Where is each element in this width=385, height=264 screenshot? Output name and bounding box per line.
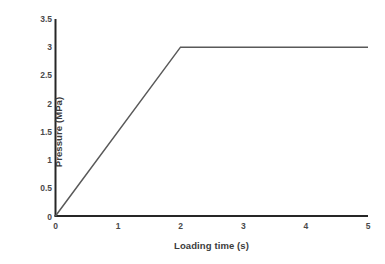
x-axis-title: Loading time (s) xyxy=(55,240,368,251)
x-tick-label: 3 xyxy=(231,221,255,231)
x-tick-label: 0 xyxy=(44,221,68,231)
y-axis-title: Pressure (MPa) xyxy=(22,0,44,264)
y-axis-title-text: Pressure (MPa) xyxy=(53,97,64,168)
pressure-vs-loading-time-chart: 3.5 3 2.5 2 1.5 1 0.5 0 0 1 2 3 4 5 Pres… xyxy=(0,0,385,264)
x-tick-label: 4 xyxy=(294,221,318,231)
pressure-series-line xyxy=(56,47,369,216)
x-tick-label: 2 xyxy=(169,221,193,231)
x-tick-label: 1 xyxy=(106,221,130,231)
x-tick-label: 5 xyxy=(356,221,380,231)
x-axis-tick-labels: 0 1 2 3 4 5 xyxy=(0,221,385,235)
